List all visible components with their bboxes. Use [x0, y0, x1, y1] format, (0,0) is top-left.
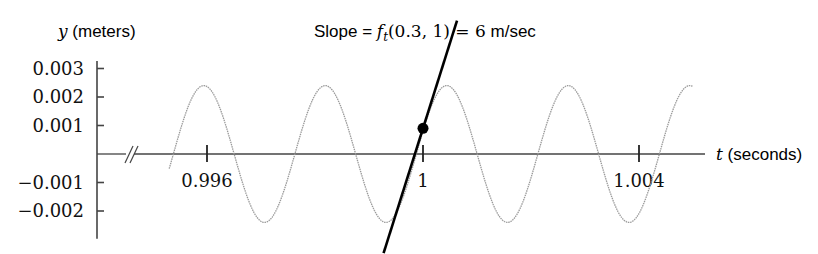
- y-tick-label: 0.003: [32, 58, 84, 79]
- labels: y (meters) Slope = ft(0.3, 1) = 6 m/sec …: [57, 21, 802, 164]
- y-tick-label: 0.002: [32, 86, 84, 107]
- x-axis-unit: (seconds): [723, 145, 802, 164]
- x-tick-label: 1: [417, 170, 428, 191]
- chart-canvas: 0.0030.0020.001−0.001−0.0020.99611.004 y…: [0, 0, 818, 254]
- y-axis-var: y: [57, 21, 68, 41]
- y-tick-label: 0.001: [32, 115, 84, 136]
- y-axis-unit: (meters): [68, 22, 136, 41]
- x-tick-label: 0.996: [181, 170, 233, 191]
- axes: 0.0030.0020.001−0.001−0.0020.99611.004: [17, 58, 705, 239]
- x-tick-label: 1.004: [613, 170, 665, 191]
- marked-point: [418, 123, 429, 134]
- x-axis-label: t (seconds): [716, 144, 802, 164]
- title-unit: m/sec: [486, 22, 537, 41]
- title-prefix: Slope =: [314, 22, 377, 41]
- y-tick-label: −0.002: [17, 200, 84, 221]
- chart-title: Slope = ft(0.3, 1) = 6 m/sec: [314, 21, 536, 44]
- tangent-line: [384, 21, 457, 254]
- tangent-series: [384, 21, 457, 254]
- y-tick-label: −0.001: [17, 172, 84, 193]
- y-axis-label: y (meters): [57, 21, 136, 41]
- title-args: (0.3, 1) = 6: [388, 21, 486, 41]
